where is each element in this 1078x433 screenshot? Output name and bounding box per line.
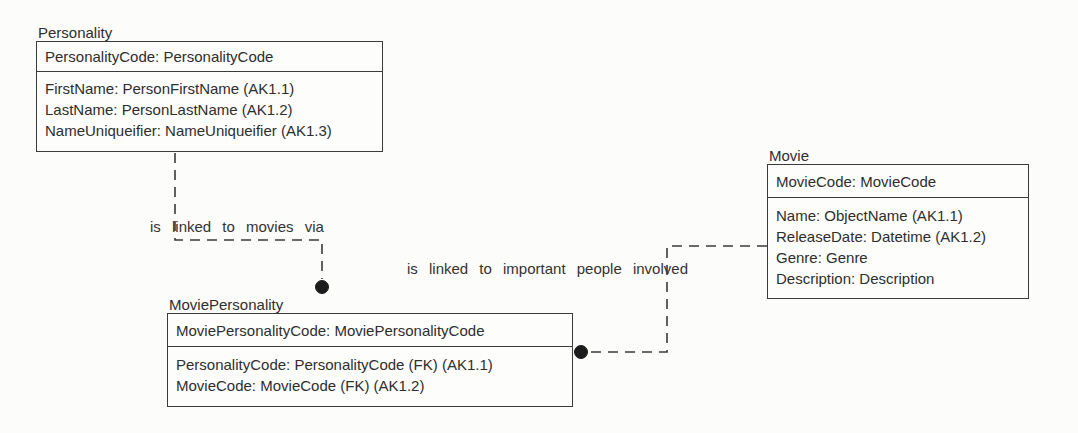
entity-personality-key-section: PersonalityCode: PersonalityCode [37, 42, 382, 72]
entity-movie-personality-title: MoviePersonality [167, 296, 573, 313]
entity-movie-personality: MoviePersonality MoviePersonalityCode: M… [167, 296, 573, 407]
many-cardinality-dot-icon [316, 281, 329, 294]
relationship-label-movie-moviepersonality: is linked to important people involved [407, 260, 688, 278]
entity-movie-personality-attributes: PersonalityCode: PersonalityCode (FK) (A… [168, 347, 572, 406]
entity-movie-key-section: MovieCode: MovieCode [768, 165, 1028, 198]
entity-personality-attributes: FirstName: PersonFirstName (AK1.1) LastN… [37, 72, 382, 151]
attribute: LastName: PersonLastName (AK1.2) [37, 99, 382, 120]
key-attribute: MoviePersonalityCode: MoviePersonalityCo… [168, 322, 484, 339]
entity-movie-personality-key-section: MoviePersonalityCode: MoviePersonalityCo… [168, 314, 572, 347]
attribute: Genre: Genre [768, 247, 1028, 268]
attribute: FirstName: PersonFirstName (AK1.1) [37, 78, 382, 99]
entity-personality-title: Personality [36, 24, 383, 41]
entity-movie-box: MovieCode: MovieCode Name: ObjectName (A… [767, 164, 1029, 299]
entity-movie-title: Movie [767, 147, 1029, 164]
relationship-line-personality-moviepersonality [175, 153, 322, 279]
entity-personality: Personality PersonalityCode: Personality… [36, 24, 383, 152]
key-attribute: MovieCode: MovieCode [768, 173, 936, 190]
entity-movie-attributes: Name: ObjectName (AK1.1) ReleaseDate: Da… [768, 198, 1028, 298]
entity-movie: Movie MovieCode: MovieCode Name: ObjectN… [767, 147, 1029, 299]
attribute: Name: ObjectName (AK1.1) [768, 205, 1028, 226]
attribute: Description: Description [768, 268, 1028, 289]
attribute: PersonalityCode: PersonalityCode (FK) (A… [168, 354, 572, 375]
entity-personality-box: PersonalityCode: PersonalityCode FirstNa… [36, 41, 383, 152]
relationship-label-personality-moviepersonality: is linked to movies via [150, 218, 324, 236]
er-diagram-canvas: Personality PersonalityCode: Personality… [0, 0, 1078, 433]
key-attribute: PersonalityCode: PersonalityCode [37, 48, 273, 65]
attribute: ReleaseDate: Datetime (AK1.2) [768, 226, 1028, 247]
attribute: NameUniqueifier: NameUniqueifier (AK1.3) [37, 120, 382, 141]
attribute: MovieCode: MovieCode (FK) (AK1.2) [168, 375, 572, 396]
entity-movie-personality-box: MoviePersonalityCode: MoviePersonalityCo… [167, 313, 573, 407]
many-cardinality-dot-icon [575, 346, 588, 359]
